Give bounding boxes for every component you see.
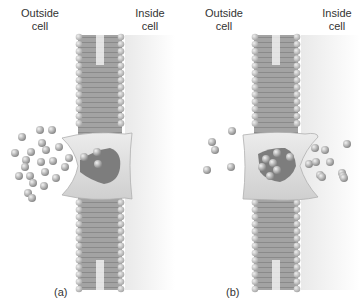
- solute-molecule: [318, 173, 326, 181]
- label-line: cell: [312, 20, 360, 33]
- inside-cell-label-b: Inside cell: [312, 7, 360, 33]
- phospholipid-head: [252, 99, 259, 106]
- label-line: Outside: [194, 7, 254, 20]
- phospholipid-head: [252, 63, 259, 70]
- phospholipid-head: [118, 264, 125, 271]
- phospholipid-head: [252, 221, 259, 228]
- solute-molecule: [343, 140, 351, 148]
- phospholipid-head: [252, 199, 259, 206]
- phospholipid-head: [252, 113, 259, 120]
- phospholipid-head: [118, 250, 125, 257]
- phospholipid-head: [252, 228, 259, 235]
- phospholipid-head: [252, 286, 259, 293]
- phospholipid-head: [252, 34, 259, 41]
- solute-molecule: [266, 172, 274, 180]
- phospholipid-head: [294, 207, 301, 214]
- phospholipid-head: [76, 243, 83, 250]
- phospholipid-head: [294, 214, 301, 221]
- phospholipid-head: [294, 221, 301, 228]
- phospholipid-head: [294, 279, 301, 286]
- phospholipid-head: [76, 235, 83, 242]
- phospholipid-head: [118, 235, 125, 242]
- phospholipid-head: [252, 243, 259, 250]
- phospholipid-head: [294, 250, 301, 257]
- panel-b: [203, 34, 360, 293]
- phospholipid-head: [294, 84, 301, 91]
- phospholipid-head: [294, 271, 301, 278]
- phospholipid-head: [252, 235, 259, 242]
- panel-caption-b: (b): [226, 286, 239, 298]
- phospholipid-head: [118, 286, 125, 293]
- phospholipid-head: [118, 48, 125, 55]
- solute-molecule: [208, 138, 216, 146]
- cytoplasm-shade: [125, 35, 175, 290]
- phospholipid-head: [118, 221, 125, 228]
- phospholipid-head: [252, 91, 259, 98]
- phospholipid-head: [76, 257, 83, 264]
- phospholipid-head: [252, 257, 259, 264]
- phospholipid-head: [118, 279, 125, 286]
- phospholipid-head: [252, 48, 259, 55]
- phospholipid-head: [118, 243, 125, 250]
- solute-molecule: [22, 156, 30, 164]
- phospholipid-head: [76, 214, 83, 221]
- solute-molecule: [21, 163, 29, 171]
- phospholipid-head: [252, 41, 259, 48]
- phospholipid-head: [294, 63, 301, 70]
- phospholipid-head: [76, 221, 83, 228]
- phospholipid-head: [76, 271, 83, 278]
- phospholipid-head: [252, 271, 259, 278]
- solute-molecule: [11, 149, 19, 157]
- phospholipid-head: [294, 257, 301, 264]
- phospholipid-head: [252, 55, 259, 62]
- phospholipid-head: [76, 41, 83, 48]
- solute-molecule: [326, 158, 334, 166]
- phospholipid-head: [118, 70, 125, 77]
- phospholipid-head: [76, 106, 83, 113]
- label-line: cell: [10, 20, 70, 33]
- solute-molecule: [55, 143, 63, 151]
- solute-molecule: [94, 160, 102, 168]
- phospholipid-head: [252, 207, 259, 214]
- solute-molecule: [28, 194, 36, 202]
- outside-cell-label-a: Outside cell: [10, 7, 70, 33]
- phospholipid-head: [76, 99, 83, 106]
- solute-molecule: [340, 174, 348, 182]
- phospholipid-head: [118, 228, 125, 235]
- solute-molecule: [262, 155, 270, 163]
- phospholipid-head: [118, 84, 125, 91]
- solute-molecule: [65, 154, 73, 162]
- phospholipid-head: [118, 106, 125, 113]
- solute-molecule: [52, 174, 60, 182]
- solute-molecule: [273, 166, 281, 174]
- phospholipid-head: [76, 113, 83, 120]
- phospholipid-head: [252, 264, 259, 271]
- phospholipid-head: [76, 228, 83, 235]
- solute-molecule: [61, 163, 69, 171]
- solute-molecule: [41, 168, 49, 176]
- phospholipid-head: [76, 199, 83, 206]
- phospholipid-head: [118, 120, 125, 127]
- solute-molecule: [38, 139, 46, 147]
- solute-molecule: [29, 179, 37, 187]
- solute-molecule: [286, 153, 294, 161]
- phospholipid-head: [252, 279, 259, 286]
- phospholipid-head: [118, 77, 125, 84]
- phospholipid-head: [294, 70, 301, 77]
- phospholipid-head: [76, 250, 83, 257]
- phospholipid-head: [76, 286, 83, 293]
- label-line: Inside: [312, 7, 360, 20]
- phospholipid-head: [76, 55, 83, 62]
- phospholipid-head: [76, 63, 83, 70]
- solute-molecule: [211, 146, 219, 154]
- phospholipid-head: [118, 207, 125, 214]
- inside-cell-label-a: Inside cell: [125, 7, 175, 33]
- phospholipid-head: [118, 271, 125, 278]
- phospholipid-head: [294, 34, 301, 41]
- label-line: cell: [125, 20, 175, 33]
- solute-molecule: [203, 166, 211, 174]
- solute-molecule: [269, 159, 277, 167]
- label-line: cell: [194, 20, 254, 33]
- solute-molecule: [305, 160, 313, 168]
- phospholipid-head: [294, 55, 301, 62]
